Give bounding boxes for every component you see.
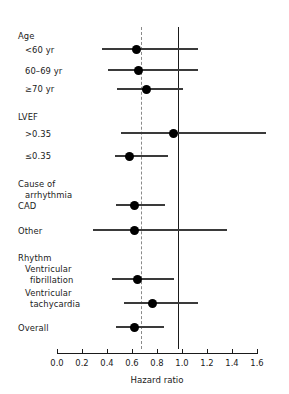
point-estimate-age-under-60 [132,45,141,54]
point-estimate-vt [148,299,157,308]
row-label-overall: Overall [18,323,49,333]
ci-row-overall [116,326,164,327]
x-tick-label-2: 0.4 [100,358,113,368]
point-estimate-overall [130,323,139,332]
row-label-age-under-60: <60 yr [25,45,54,55]
x-tick-7 [232,349,233,353]
point-estimate-vf [133,275,142,284]
ci-row-age-under-60 [102,48,197,49]
null-effect-reference-line [178,27,179,349]
ci-row-lvef-above-035 [121,132,266,133]
x-axis-line [57,353,258,354]
row-label-vf-line1: Ventricular [25,264,72,274]
ci-row-cause-other [93,229,226,230]
row-label-lvef-above-035: >0.35 [25,129,51,139]
x-tick-label-4: 0.8 [150,358,163,368]
point-estimate-lvef-above-035 [169,129,178,138]
point-estimate-cause-cad [130,201,139,210]
row-label-cause-other: Other [18,226,42,236]
x-tick-label-7: 1.4 [225,358,238,368]
ci-row-lvef-below-035 [115,155,168,156]
x-tick-3 [132,349,133,353]
row-label-cause-cad: CAD [18,201,36,211]
x-tick-5 [182,349,183,353]
point-estimate-lvef-below-035 [125,152,134,161]
group-heading-lvef: LVEF [18,112,38,122]
x-tick-6 [207,349,208,353]
ci-row-cause-cad [116,204,165,205]
x-tick-8 [257,349,258,353]
x-tick-0 [57,349,58,353]
ci-row-age-60-69 [108,69,197,70]
x-tick-4 [157,349,158,353]
row-label-vf-line2: fibrillation [30,275,73,285]
group-heading-age: Age [18,31,35,41]
point-estimate-age-60-69 [134,66,143,75]
x-tick-label-5: 1.0 [175,358,188,368]
row-label-vt-line1: Ventricular [25,288,72,298]
ci-row-vt [124,302,198,303]
x-tick-label-1: 0.2 [75,358,88,368]
point-estimate-age-70-plus [142,85,151,94]
row-label-age-60-69: 60–69 yr [25,66,62,76]
x-axis-title: Hazard ratio [131,375,184,385]
x-tick-label-0: 0.0 [50,358,63,368]
ci-row-vf [112,278,174,279]
row-label-vt-line2: tachycardia [30,299,80,309]
row-label-lvef-below-035: ≤0.35 [25,151,51,161]
forest-plot: Age <60 yr 60–69 yr ≥70 yr LVEF >0.35 ≤0… [0,0,289,394]
x-tick-label-3: 0.6 [125,358,138,368]
group-heading-rhythm: Rhythm [18,253,51,263]
group-heading-cause-line1: Cause of [18,179,55,189]
x-tick-label-6: 1.2 [200,358,213,368]
row-label-age-70-plus: ≥70 yr [25,84,54,94]
x-tick-label-8: 1.6 [250,358,263,368]
point-estimate-cause-other [130,226,139,235]
group-heading-cause-line2: arrhythmia [25,190,72,200]
x-tick-2 [107,349,108,353]
overall-effect-reference-line [141,27,142,349]
x-tick-1 [82,349,83,353]
